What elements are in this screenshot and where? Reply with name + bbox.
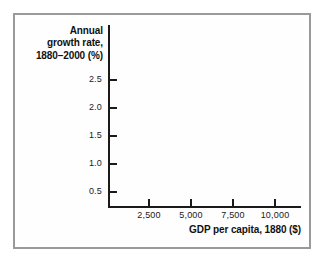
figure-container: Annual growth rate, 1880–2000 (%) 2.5 2.… bbox=[0, 0, 327, 266]
x-tick-mark bbox=[232, 199, 234, 206]
y-tick-label: 0.5 bbox=[74, 186, 102, 196]
y-axis-title-line-2: growth rate, bbox=[8, 37, 103, 49]
y-tick-mark bbox=[110, 191, 117, 193]
y-axis-title-line-1: Annual bbox=[8, 25, 103, 37]
y-axis-title: Annual growth rate, 1880–2000 (%) bbox=[8, 25, 103, 62]
y-tick-label: 1.0 bbox=[74, 158, 102, 168]
y-tick-mark bbox=[110, 107, 117, 109]
y-tick-label: 2.0 bbox=[74, 102, 102, 112]
y-tick-label: 1.5 bbox=[74, 130, 102, 140]
y-axis-line bbox=[108, 25, 110, 208]
y-axis-title-line-3: 1880–2000 (%) bbox=[8, 50, 103, 62]
x-tick-label: 10,000 bbox=[245, 210, 305, 220]
chart-plot-area: Annual growth rate, 1880–2000 (%) 2.5 2.… bbox=[0, 0, 327, 266]
x-axis-line bbox=[108, 206, 301, 208]
x-tick-mark bbox=[190, 199, 192, 206]
y-tick-mark bbox=[110, 79, 117, 81]
x-tick-mark bbox=[274, 199, 276, 206]
x-axis-title: GDP per capita, 1880 ($) bbox=[140, 224, 301, 235]
x-tick-mark bbox=[148, 199, 150, 206]
y-tick-label: 2.5 bbox=[74, 74, 102, 84]
y-tick-mark bbox=[110, 135, 117, 137]
y-tick-mark bbox=[110, 163, 117, 165]
